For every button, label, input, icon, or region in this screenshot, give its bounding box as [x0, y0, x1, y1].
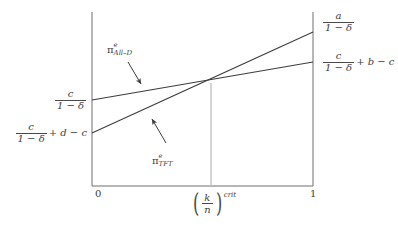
- fraction-denominator: 1 − δ: [16, 133, 47, 145]
- right-endpoint-label-tft: a 1 − δ: [322, 11, 356, 33]
- all-d-curve-label: πeAll–D: [107, 44, 114, 55]
- fraction: kn: [201, 192, 213, 215]
- x-tick-label-1: 1: [310, 188, 316, 199]
- x-axis-label: (kn)crit: [191, 192, 236, 215]
- all-d-annotation-arrow: [128, 62, 141, 84]
- fraction-numerator: c: [323, 51, 354, 62]
- fraction-denominator: 1 − δ: [323, 22, 354, 34]
- superscript: e: [114, 41, 118, 49]
- left-paren: (: [193, 193, 199, 214]
- fraction-numerator: k: [202, 192, 212, 203]
- fraction-numerator: c: [55, 89, 86, 100]
- fraction: c 1 − δ: [15, 122, 48, 144]
- fraction-denominator: n: [202, 203, 212, 215]
- right-endpoint-label-all-d: c 1 − δ + b − c: [322, 51, 394, 73]
- fraction-denominator: 1 − δ: [55, 100, 86, 112]
- label-remainder: + b − c: [355, 57, 394, 68]
- subscript: All–D: [114, 49, 133, 57]
- fraction: c 1 − δ: [322, 51, 355, 73]
- fraction: a 1 − δ: [322, 11, 355, 33]
- subscript: TFT: [159, 160, 173, 168]
- tft-annotation-arrow: [152, 119, 166, 143]
- x-tick-label-0: 0: [95, 188, 101, 199]
- tft-curve-label: πeTFT: [152, 155, 159, 166]
- fraction-denominator: 1 − δ: [323, 62, 354, 74]
- fraction-numerator: a: [323, 11, 354, 22]
- superscript: e: [159, 152, 163, 160]
- fraction: c 1 − δ: [54, 89, 87, 111]
- left-intercept-label-tft: c 1 − δ + d − c: [15, 122, 87, 144]
- payoff-diagram-figure: c 1 − δ c 1 − δ + d − c a 1 − δ c 1 − δ …: [0, 0, 398, 230]
- crit-exponent: crit: [224, 191, 236, 199]
- label-remainder: + d − c: [48, 128, 87, 139]
- fraction-numerator: c: [16, 122, 47, 133]
- all-d-payoff-line: [92, 62, 313, 100]
- pi-symbol: π: [152, 155, 159, 166]
- right-paren: ): [216, 193, 222, 214]
- pi-symbol: π: [107, 44, 114, 55]
- left-intercept-label-all-d: c 1 − δ: [54, 89, 87, 111]
- tft-payoff-line: [92, 32, 313, 133]
